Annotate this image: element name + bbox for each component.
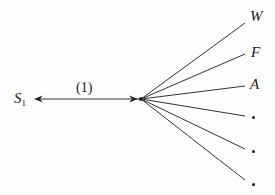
branch-label-w: W <box>250 9 263 24</box>
diagram-lines <box>0 0 275 195</box>
edge-label: (1) <box>76 81 92 95</box>
branch-dot-2 <box>141 99 245 149</box>
branch-dot-3 <box>141 99 245 180</box>
source-node-subscript: 1 <box>22 98 27 108</box>
source-node-label: S1 <box>14 91 26 108</box>
branch-dot-1 <box>141 99 245 116</box>
branch-dot-marker-3 <box>252 183 255 186</box>
branch-label-a: A <box>250 77 259 92</box>
branch-dot-marker-1 <box>252 116 255 119</box>
source-node-letter: S <box>14 90 22 106</box>
branch-label-f: F <box>251 45 260 60</box>
tree-diagram: S1 (1) W F A <box>0 0 275 195</box>
branch-dot-marker-2 <box>252 150 255 153</box>
